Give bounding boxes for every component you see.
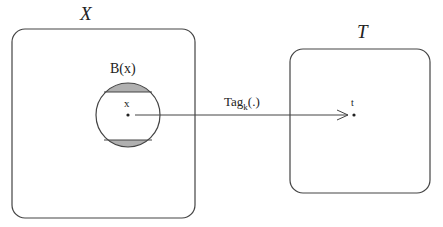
set-x-box [12, 29, 195, 218]
ball-label: B(x) [110, 61, 136, 77]
set-t-label: T [357, 21, 368, 43]
ball-top-shaded-cap [90, 80, 170, 92]
ball-bottom-shaded-cap [90, 140, 170, 152]
set-t-box [290, 49, 430, 193]
point-t [352, 113, 355, 116]
arrow-label-main: Tag [224, 94, 243, 109]
point-x [126, 113, 129, 116]
set-x-label: X [80, 3, 92, 25]
arrow-label: Tagk(.) [224, 94, 260, 112]
point-t-label: t [351, 97, 354, 108]
diagram-canvas [0, 0, 443, 227]
point-x-label: x [124, 97, 130, 109]
arrow-label-suffix: (.) [248, 94, 260, 109]
